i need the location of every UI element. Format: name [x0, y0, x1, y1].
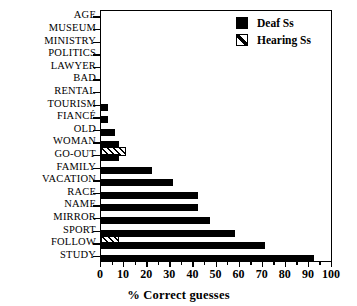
y-axis-label: MINISTRY	[0, 36, 96, 47]
y-axis-tick	[93, 79, 100, 81]
x-axis-minor-tick	[204, 262, 205, 265]
y-axis-category-labels: AGEMUSEUMMINISTRYPOLITICSLAWYERBADRENTAL…	[0, 10, 96, 262]
y-axis-tick	[93, 142, 100, 144]
x-axis-minor-tick	[181, 262, 182, 265]
y-axis-tick	[93, 231, 100, 233]
legend-label-deaf: Deaf Ss	[257, 17, 294, 29]
y-axis-tick	[93, 193, 100, 195]
solid-square-icon	[236, 17, 248, 29]
bar-deaf	[101, 204, 198, 211]
bar-deaf	[101, 217, 210, 224]
y-axis-label: FIANCÉ	[0, 111, 96, 122]
y-axis-label: OLD	[0, 124, 96, 135]
bar-deaf	[101, 104, 108, 111]
bar-deaf	[101, 167, 152, 174]
y-axis-tick	[93, 42, 100, 44]
y-axis-tick	[93, 130, 100, 132]
bar-deaf	[101, 179, 173, 186]
y-axis-tick	[93, 92, 100, 94]
y-axis-label: STUDY	[0, 250, 96, 261]
x-axis-minor-tick	[250, 262, 251, 265]
x-axis-tick-label: 100	[316, 268, 346, 280]
legend-item-deaf: Deaf Ss	[236, 14, 311, 31]
y-axis-label: AGE	[0, 10, 96, 21]
bar-deaf	[101, 129, 115, 136]
legend-item-hearing: Hearing Ss	[236, 31, 311, 48]
bar-deaf	[101, 192, 198, 199]
bar-deaf	[101, 154, 119, 161]
y-axis-tick	[93, 54, 100, 56]
x-axis-minor-tick	[112, 262, 113, 265]
y-axis-label: SPORT	[0, 225, 96, 236]
bar-deaf	[101, 242, 265, 249]
y-axis-label: POLITICS	[0, 48, 96, 59]
x-axis-minor-tick	[227, 262, 228, 265]
y-axis-label: TOURISM	[0, 99, 96, 110]
chart-legend: Deaf Ss Hearing Ss	[236, 14, 311, 48]
y-axis-tick	[93, 218, 100, 220]
y-axis-tick	[93, 256, 100, 258]
y-axis-label: FAMILY	[0, 162, 96, 173]
bar-deaf	[101, 141, 119, 148]
x-axis-minor-tick	[296, 262, 297, 265]
y-axis-tick	[93, 105, 100, 107]
x-axis-minor-tick	[319, 262, 320, 265]
y-axis-label: GO-OUT	[0, 149, 96, 160]
y-axis-label: VACATION	[0, 174, 96, 185]
bar-deaf	[101, 116, 108, 123]
hatched-square-icon	[236, 34, 248, 46]
bar-deaf	[101, 230, 235, 237]
y-axis-label: BAD	[0, 73, 96, 84]
bar-chart: AGEMUSEUMMINISTRYPOLITICSLAWYERBADRENTAL…	[0, 0, 357, 306]
y-axis-label: MIRROR	[0, 212, 96, 223]
y-axis-tick	[93, 29, 100, 31]
y-axis-tick	[93, 155, 100, 157]
bar-deaf	[101, 255, 314, 262]
y-axis-tick	[93, 243, 100, 245]
y-axis-label: MUSEUM	[0, 23, 96, 34]
y-axis-label: WOMAN	[0, 136, 96, 147]
x-axis-minor-tick	[158, 262, 159, 265]
y-axis-tick	[93, 180, 100, 182]
x-axis-minor-tick	[273, 262, 274, 265]
y-axis-tick	[93, 205, 100, 207]
y-axis-label: RACE	[0, 187, 96, 198]
y-axis-label: RENTAL	[0, 86, 96, 97]
y-axis-tick	[93, 117, 100, 119]
x-axis-title: % Correct guesses	[0, 288, 357, 303]
x-axis-tick-labels: 0102030405060708090100	[0, 268, 357, 284]
y-axis-label: LAWYER	[0, 61, 96, 72]
y-axis-tick	[93, 16, 100, 18]
legend-label-hearing: Hearing Ss	[257, 34, 311, 46]
y-axis-label: NAME	[0, 199, 96, 210]
y-axis-tick	[93, 67, 100, 69]
y-axis-tick	[93, 168, 100, 170]
x-axis-minor-tick	[135, 262, 136, 265]
y-axis-label: FOLLOW	[0, 237, 96, 248]
